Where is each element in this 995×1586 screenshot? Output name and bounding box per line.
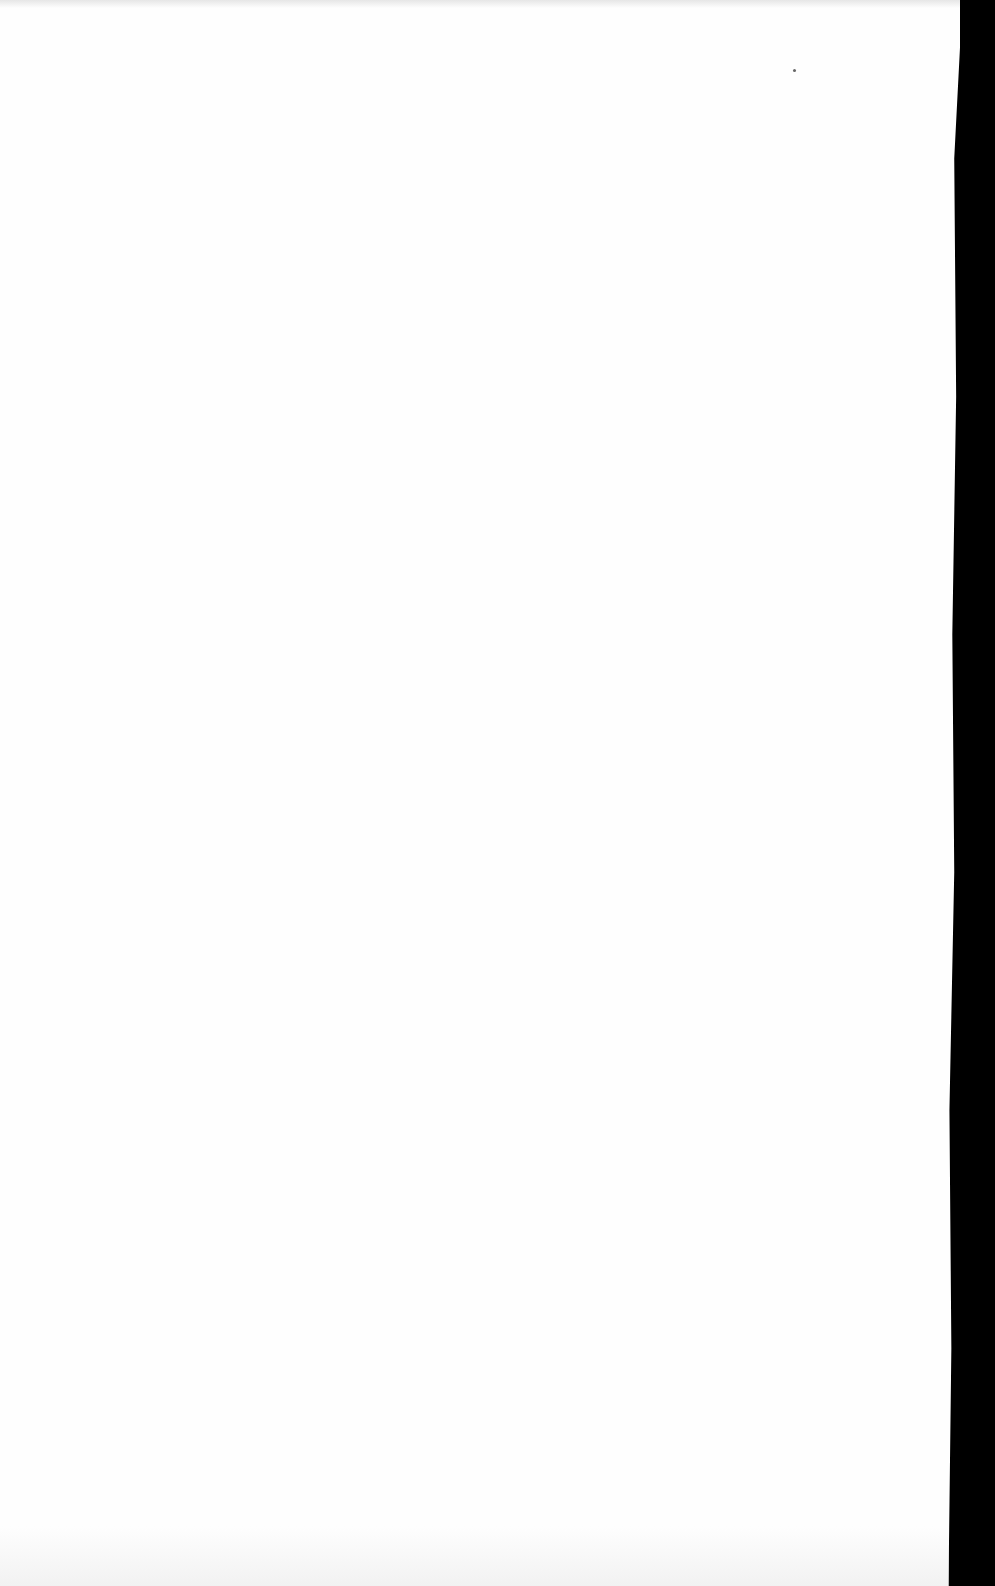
paper-texture xyxy=(0,1526,960,1586)
blank-page xyxy=(0,0,960,1586)
top-scan-shadow xyxy=(0,0,960,8)
dust-speck xyxy=(793,69,796,72)
